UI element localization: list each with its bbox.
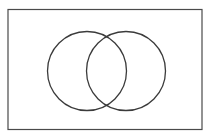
outer-rectangle-border (8, 10, 202, 130)
venn-diagram-canvas (0, 0, 211, 139)
venn-diagram-figure (0, 0, 211, 139)
